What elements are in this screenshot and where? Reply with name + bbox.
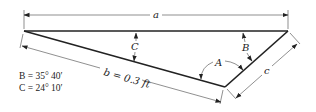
angle-B: B (241, 33, 252, 61)
given-B: B = 35° 40′ (19, 71, 63, 81)
dimension-b: b = 0.3 ft (20, 34, 223, 104)
triangle (24, 31, 288, 87)
dimension-a: a (24, 9, 288, 29)
label-C: C (131, 41, 139, 52)
label-B: B (241, 42, 249, 53)
side-c (225, 31, 288, 87)
label-c: c (264, 65, 270, 76)
angle-C: C (131, 33, 139, 61)
label-A: A (214, 57, 222, 68)
triangle-diagram: a b = 0.3 ft c C B A B = 35° 40′ C = 24°… (0, 0, 316, 112)
given-values: B = 35° 40′ C = 24° 10′ (19, 71, 63, 93)
label-b: b = 0.3 ft (102, 66, 152, 90)
label-a: a (153, 9, 159, 20)
dimension-c: c (227, 33, 300, 99)
given-C: C = 24° 10′ (19, 83, 63, 93)
